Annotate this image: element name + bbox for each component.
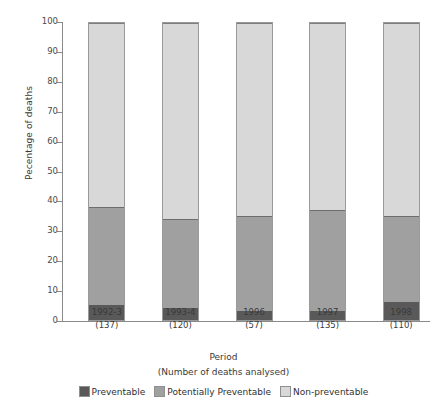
x-tick-period: 1996 bbox=[243, 307, 265, 317]
x-tick-period: 1998 bbox=[390, 307, 412, 317]
y-tick-label: 70 bbox=[47, 106, 58, 116]
y-axis-title: Pecentage of deaths bbox=[24, 58, 34, 208]
x-tick-period: 1997 bbox=[317, 307, 339, 317]
bar-segment-potentially-preventable[interactable] bbox=[163, 219, 198, 309]
x-tick-period: 1992-3 bbox=[92, 307, 122, 317]
legend-item-preventable[interactable]: Preventable bbox=[79, 386, 146, 397]
bar-1997[interactable] bbox=[309, 22, 346, 321]
bar-segment-non-preventable[interactable] bbox=[89, 23, 124, 207]
y-tick-label: 0 bbox=[53, 315, 58, 325]
bar-segment-potentially-preventable[interactable] bbox=[237, 216, 272, 311]
chart-legend: PreventablePotentially PreventableNon-pr… bbox=[0, 386, 447, 397]
legend-swatch-icon bbox=[280, 386, 291, 397]
legend-swatch-icon bbox=[154, 386, 165, 397]
x-axis-title-main: Period bbox=[209, 352, 237, 362]
y-tick-label: 40 bbox=[47, 195, 58, 205]
bar-segment-non-preventable[interactable] bbox=[163, 23, 198, 219]
bar-segment-potentially-preventable[interactable] bbox=[384, 216, 419, 303]
legend-item-non-preventable[interactable]: Non-preventable bbox=[280, 386, 368, 397]
x-axis-title: Period (Number of deaths analysed) bbox=[0, 350, 447, 380]
legend-label: Non-preventable bbox=[293, 387, 368, 397]
bar-segment-potentially-preventable[interactable] bbox=[89, 207, 124, 305]
legend-item-potentially-preventable[interactable]: Potentially Preventable bbox=[154, 386, 271, 397]
y-tick-label: 50 bbox=[47, 166, 58, 176]
legend-label: Potentially Preventable bbox=[167, 387, 271, 397]
y-tick-label: 30 bbox=[47, 225, 58, 235]
bar-1996[interactable] bbox=[236, 22, 273, 321]
bar-segment-non-preventable[interactable] bbox=[310, 23, 345, 210]
y-tick-label: 60 bbox=[47, 136, 58, 146]
plot-area: 0102030405060708090100 bbox=[62, 22, 430, 322]
bar-segment-non-preventable[interactable] bbox=[237, 23, 272, 216]
legend-swatch-icon bbox=[79, 386, 90, 397]
x-tick-count: (110) bbox=[356, 319, 446, 332]
y-tick-label: 100 bbox=[42, 16, 58, 26]
x-axis-title-sub: (Number of deaths analysed) bbox=[0, 365, 447, 380]
y-tick-label: 20 bbox=[47, 255, 58, 265]
bar-1992-3[interactable] bbox=[88, 22, 125, 321]
y-tick-label: 10 bbox=[47, 285, 58, 295]
bar-1993-4[interactable] bbox=[162, 22, 199, 321]
stacked-bar-chart: Pecentage of deaths 01020304050607080901… bbox=[0, 0, 447, 408]
bar-segment-potentially-preventable[interactable] bbox=[310, 210, 345, 311]
y-tick-label: 80 bbox=[47, 76, 58, 86]
bar-1998[interactable] bbox=[383, 22, 420, 321]
x-tick-label-1998: 1998(110) bbox=[356, 306, 446, 332]
y-tick-label: 90 bbox=[47, 46, 58, 56]
x-tick-period: 1993-4 bbox=[165, 307, 195, 317]
legend-label: Preventable bbox=[92, 387, 146, 397]
bar-segment-non-preventable[interactable] bbox=[384, 23, 419, 216]
